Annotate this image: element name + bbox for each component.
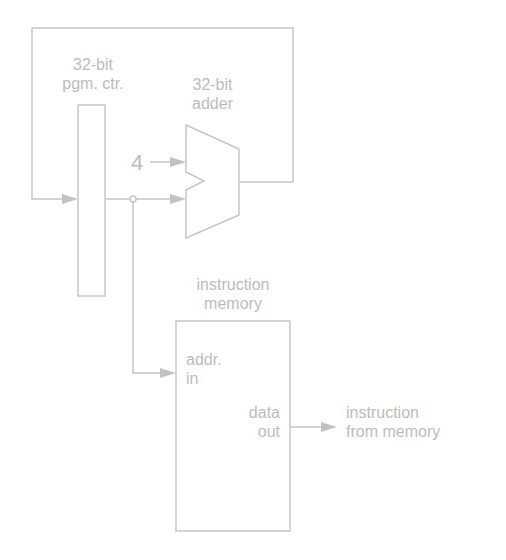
addr-in-label: addr. in (186, 350, 222, 388)
data-out-arrowhead (321, 422, 337, 432)
addr-in-line1: addr. (186, 350, 222, 369)
data-out-label: data out (230, 403, 280, 441)
program-counter-box (78, 105, 105, 296)
memory-label-line1: instruction (168, 275, 298, 294)
junction-dot (130, 196, 136, 202)
adder-label-line2: adder (175, 94, 250, 113)
adder-shape (186, 125, 239, 238)
memory-label: instruction memory (168, 275, 298, 313)
pc-label-line2: pgm. ctr. (48, 74, 138, 93)
adder-input-b-arrowhead (170, 194, 186, 204)
output-label-line1: instruction (346, 403, 440, 422)
adder-label-line1: 32-bit (175, 75, 250, 94)
feedback-wire (32, 28, 293, 199)
pc-to-memory-wire (133, 202, 164, 373)
adder-label: 32-bit adder (175, 75, 250, 113)
constant-four: 4 (131, 152, 143, 174)
memory-label-line2: memory (168, 294, 298, 313)
pc-label: 32-bit pgm. ctr. (48, 55, 138, 93)
output-label-line2: from memory (346, 422, 440, 441)
data-out-line2: out (230, 422, 280, 441)
data-out-line1: data (230, 403, 280, 422)
addr-in-line2: in (186, 369, 222, 388)
adder-input-a-arrowhead (170, 157, 186, 167)
memory-addr-arrowhead (160, 368, 176, 378)
pc-label-line1: 32-bit (48, 55, 138, 74)
instruction-output-label: instruction from memory (346, 403, 440, 441)
pc-input-arrowhead (62, 194, 78, 204)
